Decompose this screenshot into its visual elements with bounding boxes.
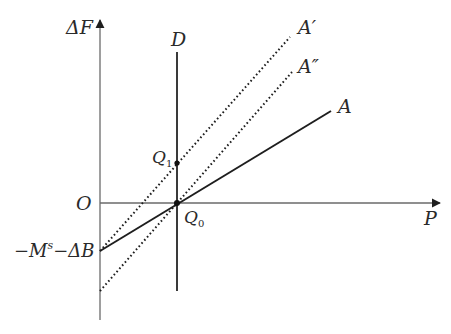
- point-q0-label: Q0: [184, 207, 204, 229]
- intercept-label: −Ms−ΔB: [14, 239, 94, 261]
- line-a-prime-label: A′: [296, 16, 317, 38]
- line-a-label: A: [336, 95, 352, 117]
- origin-label: O: [76, 192, 92, 214]
- line-a: [100, 111, 331, 251]
- point-q0: [174, 200, 180, 206]
- diagram-canvas: ΔF P P O D A′ A″ A Q1 Q0 −Ms−ΔB: [0, 0, 451, 334]
- point-q1-label: Q1: [152, 147, 172, 169]
- y-axis-label: ΔF: [65, 16, 94, 38]
- point-q1: [174, 160, 179, 165]
- line-d-label: D: [170, 28, 186, 50]
- line-a-double-prime-label: A″: [296, 55, 319, 77]
- x-axis-label-visible: P: [423, 207, 438, 229]
- line-a-double-prime: [100, 72, 292, 291]
